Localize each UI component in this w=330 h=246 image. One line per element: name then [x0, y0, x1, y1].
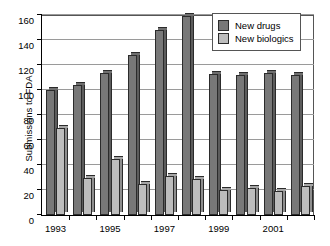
bar-face [219, 190, 228, 215]
bar [46, 90, 55, 215]
bar [236, 75, 245, 215]
legend-label: New drugs [235, 20, 280, 31]
y-axis-tick [37, 139, 42, 140]
bar-side [174, 173, 177, 212]
bar-side [65, 125, 68, 213]
bar [128, 55, 137, 215]
legend-item: New biologics [218, 33, 294, 44]
legend-swatch-icon [218, 33, 229, 44]
bar-face [56, 128, 65, 216]
bar [264, 73, 273, 216]
bar-face [264, 73, 273, 216]
bar [73, 85, 82, 215]
y-axis-tick [37, 14, 42, 15]
x-axis-tick [151, 215, 152, 220]
bar [291, 75, 300, 215]
bar-side [310, 183, 313, 212]
legend: New drugsNew biologics [212, 13, 301, 51]
bar [111, 159, 120, 215]
bar [83, 178, 92, 216]
x-axis-tick [232, 215, 233, 220]
legend-item: New drugs [218, 20, 294, 31]
bar-face [247, 188, 256, 216]
bar-face [128, 55, 137, 215]
y-axis-tick [37, 214, 42, 215]
bar [274, 191, 283, 215]
bar [209, 74, 218, 215]
bar-face [155, 30, 164, 215]
bar-face [291, 75, 300, 215]
bar-side [283, 188, 286, 212]
x-axis-label: 1993 [45, 223, 66, 234]
bar-side [201, 176, 204, 212]
y-axis-tick [37, 89, 42, 90]
y-axis-tick [37, 189, 42, 190]
bar [247, 188, 256, 216]
bar-face [138, 184, 147, 215]
x-axis-tick [124, 215, 125, 220]
x-axis-tick [178, 215, 179, 220]
bar-face [165, 176, 174, 215]
bar [100, 73, 109, 216]
bar-face [46, 90, 55, 215]
y-axis-tick [37, 64, 42, 65]
bar [219, 190, 228, 215]
legend-swatch-icon [218, 20, 229, 31]
bar [138, 184, 147, 215]
bar-side [228, 187, 231, 212]
x-axis-label: 2001 [263, 223, 284, 234]
bar-face [209, 74, 218, 215]
bar [182, 16, 191, 215]
bar-side [147, 181, 150, 212]
plot-right-border [313, 15, 314, 215]
bar-face [100, 73, 109, 216]
bar [192, 179, 201, 215]
bar-face [111, 159, 120, 215]
bar-side [92, 175, 95, 213]
x-axis-tick [205, 215, 206, 220]
bar [155, 30, 164, 215]
bar-side [120, 156, 123, 212]
x-axis-tick [260, 215, 261, 220]
bar-side [256, 185, 259, 213]
x-axis-label: 1999 [208, 223, 229, 234]
y-axis-tick [37, 164, 42, 165]
x-axis-tick [314, 215, 315, 220]
bar-face [192, 179, 201, 215]
bar-chart: Submissions to FDA 020406080100120140160… [0, 0, 330, 246]
x-axis-tick [287, 215, 288, 220]
bar-face [301, 186, 310, 215]
gridline [42, 64, 314, 65]
bar-face [83, 178, 92, 216]
x-axis-label: 1995 [99, 223, 120, 234]
x-axis-tick [69, 215, 70, 220]
bar [301, 186, 310, 215]
bar-face [182, 16, 191, 215]
bar [56, 128, 65, 216]
y-axis-tick [37, 114, 42, 115]
bar-face [73, 85, 82, 215]
legend-label: New biologics [235, 33, 294, 44]
bar-face [236, 75, 245, 215]
x-axis-label: 1997 [154, 223, 175, 234]
bar-face [274, 191, 283, 215]
bar [165, 176, 174, 215]
x-axis-tick [96, 215, 97, 220]
y-axis-tick [37, 39, 42, 40]
